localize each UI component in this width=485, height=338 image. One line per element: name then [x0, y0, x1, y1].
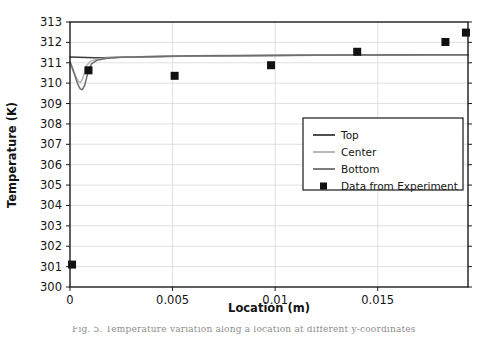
y-tick-label: 308: [40, 117, 62, 131]
experiment-data-point: [353, 48, 361, 56]
y-tick-label: 302: [40, 239, 62, 253]
chart-legend[interactable]: TopCenterBottomData from Experiment: [303, 118, 463, 192]
y-tick-label: 303: [40, 219, 62, 233]
x-axis-title: Location (m): [228, 301, 310, 315]
legend-label: Top: [340, 129, 359, 141]
experiment-data-point: [68, 261, 76, 269]
experiment-data-point: [462, 29, 470, 37]
y-tick-label: 305: [40, 178, 62, 192]
figure-container: 3003013023033043053063073083093103113123…: [0, 0, 485, 338]
legend-label: Center: [341, 146, 377, 158]
x-tick-label: 0.005: [156, 293, 189, 307]
temperature-vs-location-chart: 3003013023033043053063073083093103113123…: [0, 0, 485, 318]
legend-swatch-marker: [320, 183, 327, 190]
experiment-data-point: [171, 72, 179, 80]
experiment-data-point: [84, 66, 92, 74]
y-tick-label: 300: [40, 280, 62, 294]
x-tick-label: 0.015: [361, 293, 394, 307]
figure-caption: Fig. 5. Temperature variation along a lo…: [72, 326, 472, 334]
y-tick-label: 313: [40, 15, 62, 29]
y-tick-label: 311: [40, 56, 62, 70]
y-tick-label: 307: [40, 137, 62, 151]
y-axis-title: Temperature (K): [5, 102, 19, 208]
experiment-data-point: [441, 38, 449, 46]
y-tick-label: 306: [40, 158, 62, 172]
legend-label: Bottom: [341, 163, 380, 175]
figure-caption-strip: Fig. 5. Temperature variation along a lo…: [0, 326, 485, 338]
experiment-data-point: [267, 61, 275, 69]
y-tick-label: 304: [40, 198, 62, 212]
legend-label: Data from Experiment: [341, 180, 458, 192]
y-tick-label: 312: [40, 35, 62, 49]
y-tick-label: 301: [40, 260, 62, 274]
y-axis-tick-labels: 3003013023033043053063073083093103113123…: [40, 15, 62, 294]
y-tick-label: 309: [40, 97, 62, 111]
x-tick-label: 0: [66, 293, 73, 307]
y-tick-label: 310: [40, 76, 62, 90]
